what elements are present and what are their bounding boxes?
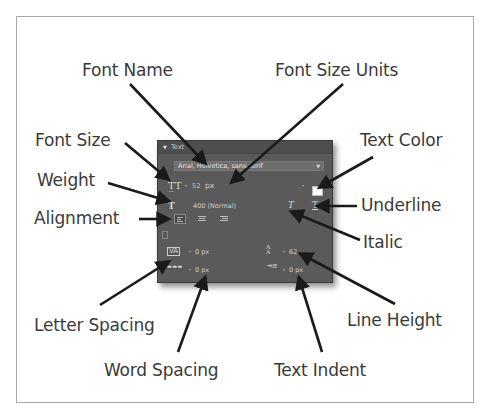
scrub-dot-icon: • xyxy=(282,266,286,274)
scrub-dot-icon: • xyxy=(282,248,286,256)
scrub-dot-icon: • xyxy=(188,248,192,256)
panel-header[interactable]: ▼ Text xyxy=(158,141,332,154)
font-weight-icon: T xyxy=(168,201,175,211)
scrub-dot-icon: • xyxy=(188,266,192,274)
font-size-unit-select[interactable]: px xyxy=(205,181,214,190)
line-height-input[interactable]: 62 xyxy=(289,248,297,256)
font-weight-select[interactable]: 400 (Normal) xyxy=(193,202,236,210)
scrub-dot-icon: • xyxy=(301,182,305,190)
label-font-size-units: Font Size Units xyxy=(275,60,398,80)
align-center-button[interactable] xyxy=(196,214,208,224)
align-left-button[interactable] xyxy=(174,214,186,224)
align-right-button[interactable] xyxy=(218,214,230,224)
scrub-dot-icon: • xyxy=(184,182,188,190)
label-font-name: Font Name xyxy=(82,60,173,80)
word-spacing-input[interactable]: 0 px xyxy=(195,266,209,274)
label-alignment: Alignment xyxy=(34,208,119,228)
label-italic: Italic xyxy=(363,232,403,252)
font-size-input[interactable]: 52 xyxy=(192,182,200,190)
triangle-down-icon[interactable]: ▼ xyxy=(163,144,167,150)
label-text-indent: Text Indent xyxy=(274,360,366,380)
label-line-height: Line Height xyxy=(347,310,442,330)
line-height-icon: AA xyxy=(266,244,270,254)
text-indent-input[interactable]: 0 px xyxy=(289,266,303,274)
label-letter-spacing: Letter Spacing xyxy=(34,315,155,335)
text-indent-icon: ⇥≡ xyxy=(266,262,278,270)
text-properties-panel: ▼ Text Arial, Helvetica, sans-serif ▼ T̲… xyxy=(157,140,333,283)
panel-title: Text xyxy=(171,143,184,151)
italic-icon[interactable]: T xyxy=(288,200,294,210)
font-size-icon: T̲T xyxy=(168,180,181,191)
label-underline: Underline xyxy=(361,195,441,215)
letter-spacing-input[interactable]: 0 px xyxy=(195,248,209,256)
label-word-spacing: Word Spacing xyxy=(104,360,218,380)
font-family-select[interactable]: Arial, Helvetica, sans-serif ▼ xyxy=(174,161,324,171)
justify-toggle-icon[interactable] xyxy=(162,231,168,239)
label-weight: Weight xyxy=(37,170,95,190)
word-spacing-icon: ▬▬▬ xyxy=(167,263,183,269)
text-color-swatch[interactable] xyxy=(312,186,323,196)
letter-spacing-icon: VA xyxy=(167,247,180,256)
font-family-value: Arial, Helvetica, sans-serif xyxy=(178,162,263,170)
underline-icon[interactable]: T xyxy=(312,200,318,210)
label-font-size: Font Size xyxy=(35,130,111,150)
chevron-down-icon: ▼ xyxy=(316,162,320,171)
label-text-color: Text Color xyxy=(360,130,442,150)
